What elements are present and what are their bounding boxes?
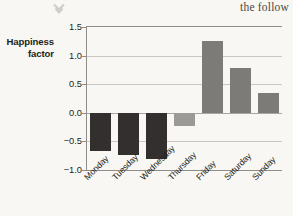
chart-plot-area (86, 26, 282, 171)
y-axis-tick-mark (82, 56, 86, 57)
gridline (87, 56, 282, 57)
plot-frame-left (86, 26, 87, 171)
page-text-fragment: the follow (240, 1, 289, 13)
y-axis-tick-mark (82, 113, 86, 114)
chart-bar (230, 68, 251, 113)
chart-bar (202, 41, 223, 113)
gridline (87, 141, 282, 142)
chart-bar (90, 113, 111, 151)
y-axis-tick-mark (82, 84, 86, 85)
y-axis-tick-mark (82, 141, 86, 142)
x-axis-tick-labels: MondayTuesdayWednesdayThursdayFridaySatu… (86, 172, 293, 216)
y-axis-title: Happiness factor (0, 36, 54, 59)
y-axis-tick-mark (82, 27, 86, 28)
chart-bar (258, 93, 279, 112)
y-axis-tick-label: 1.5 (56, 22, 82, 32)
y-axis-tick-label: −0.5 (56, 136, 82, 146)
y-axis-tick-label: −1.0 (56, 165, 82, 175)
chart-bar (174, 113, 195, 126)
gridline (87, 84, 282, 85)
y-axis-tick-label: 0.5 (56, 79, 82, 89)
y-axis-title-line-1: Happiness (0, 36, 54, 48)
page-canvas: the follow Happiness factor 1.51.00.50.0… (0, 0, 293, 216)
y-axis-title-line-2: factor (0, 48, 54, 60)
plot-frame-top (86, 26, 282, 27)
y-axis-tick-labels: 1.51.00.50.0−0.5−1.0 (54, 26, 82, 171)
y-axis-tick-label: 1.0 (56, 51, 82, 61)
chevron-down-icon (52, 2, 66, 17)
chart-bar (118, 113, 139, 155)
y-axis-tick-label: 0.0 (56, 108, 82, 118)
